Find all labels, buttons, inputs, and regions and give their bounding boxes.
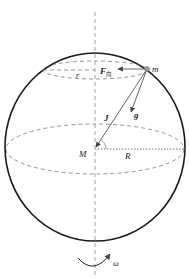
mass-point [144,66,149,71]
gravitation-label: J [103,113,109,123]
latitude-radius-label: r [76,71,80,80]
latitude-angle-arc [101,140,106,149]
angular-velocity-arrow [78,254,110,266]
mass-label: m [152,64,159,74]
centripetal-force-label: F向 [99,66,112,77]
planet-mass-label: M [78,149,87,159]
gravitation-vector [96,69,147,147]
planet-radius-label: R [124,151,131,161]
angular-velocity-label: ω [113,259,119,268]
planet-diagram: m M R r F向 J g ω [0,0,189,278]
gravity-label: g [133,110,139,120]
